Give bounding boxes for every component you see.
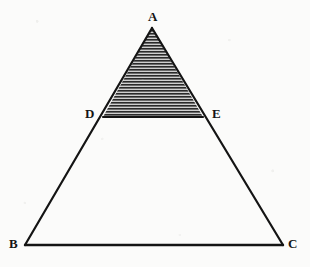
geometry-figure: A B C D E	[0, 0, 310, 267]
figure-canvas	[0, 0, 310, 267]
shaded-triangle-ade	[103, 28, 203, 117]
vertex-label-e: E	[212, 107, 221, 120]
vertex-label-b: B	[9, 237, 18, 250]
vertex-label-c: C	[288, 237, 297, 250]
vertex-label-d: D	[85, 107, 94, 120]
side-ab	[25, 28, 152, 245]
vertex-label-a: A	[148, 10, 157, 23]
triangle-ade-hatch-fill	[103, 28, 203, 117]
side-ac	[152, 28, 283, 245]
